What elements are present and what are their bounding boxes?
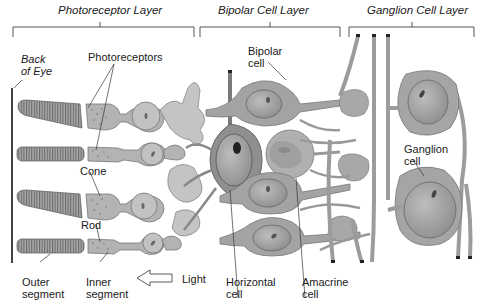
photoreceptor-rod-2: [17, 233, 181, 255]
photoreceptor-cone-1: [18, 100, 164, 132]
label-ganglion-cell: Ganglion cell: [404, 143, 448, 167]
label-photoreceptors: Photoreceptors: [88, 51, 163, 63]
ganglion-cell-top: [388, 71, 459, 136]
label-amacrine-cell: Amacrine cell: [302, 276, 348, 300]
label-light: Light: [182, 273, 206, 285]
layer-brackets: [13, 22, 474, 37]
layer-title-ganglion: Ganglion Cell Layer: [367, 4, 468, 16]
inner-plexiform-network: [300, 89, 370, 250]
bipolar-cell-top: [206, 81, 340, 126]
label-outer-segment: Outer segment: [22, 276, 64, 300]
label-horizontal-cell: Horizontal cell: [226, 276, 276, 300]
label-inner-segment: Inner segment: [86, 276, 128, 300]
label-rod: Rod: [81, 219, 101, 231]
layer-title-bipolar: Bipolar Cell Layer: [218, 4, 309, 16]
photoreceptor-rod-1: [17, 143, 185, 166]
light-arrow-icon: [137, 270, 172, 286]
label-back-of-eye: Back of Eye: [21, 53, 52, 77]
label-bipolar-cell: Bipolar cell: [248, 45, 282, 69]
ganglion-cell-bottom: [388, 167, 462, 245]
label-cone: Cone: [80, 165, 106, 177]
layer-title-photoreceptor: Photoreceptor Layer: [58, 4, 162, 16]
photoreceptor-cone-2: [17, 190, 164, 222]
